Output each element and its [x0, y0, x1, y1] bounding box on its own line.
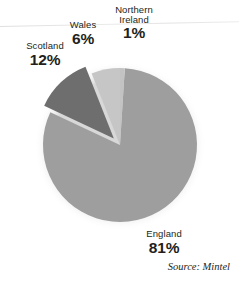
pie-label-england-value: 81%: [133, 240, 195, 257]
pie-label-scotland-value: 12%: [8, 52, 82, 69]
pie-label-wales-value: 6%: [58, 31, 108, 48]
source-note: Source: Mintel: [168, 261, 230, 272]
pie-label-wales-name: Wales: [58, 20, 108, 30]
pie-chart-figure: Scotland 12% Wales 6% Northern Ireland 1…: [0, 0, 239, 281]
pie-label-wales: Wales 6%: [58, 20, 108, 48]
pie-label-england-name: England: [133, 229, 195, 239]
pie-label-northern-ireland: Northern Ireland 1%: [103, 5, 165, 42]
pie-label-northern-ireland-name-line2: Ireland: [103, 15, 165, 25]
pie-label-england: England 81%: [133, 229, 195, 257]
pie-label-northern-ireland-value: 1%: [103, 25, 165, 42]
